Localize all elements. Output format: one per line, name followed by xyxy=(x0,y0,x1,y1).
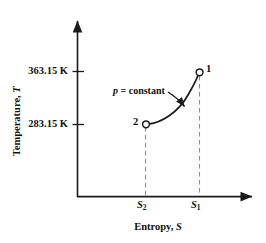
process-curve xyxy=(149,75,199,124)
annotation-arrow xyxy=(168,92,185,107)
y-axis-title-text: Temperature, xyxy=(11,93,22,157)
x-axis-title-text: Entropy, xyxy=(134,221,176,232)
process-annotation-text: = constant xyxy=(118,85,165,96)
x-tick-label-s1: S1 xyxy=(191,200,201,212)
state-point-1-marker xyxy=(196,69,203,76)
state-point-2-marker xyxy=(143,121,150,128)
x-tick-s2-subscript: 2 xyxy=(143,203,147,212)
ts-diagram: 363.15 K 283.15 K Temperature, T Entropy… xyxy=(0,0,266,243)
process-annotation-label: p = constant xyxy=(113,86,165,96)
y-axis-variable: T xyxy=(11,86,22,92)
x-tick-s1-subscript: 1 xyxy=(197,203,201,212)
x-axis-variable: S xyxy=(176,221,182,232)
y-axis-title: Temperature, T xyxy=(12,66,23,176)
state-point-2-label: 2 xyxy=(133,117,138,128)
x-tick-label-s2: S2 xyxy=(137,200,147,212)
state-point-1-label: 1 xyxy=(206,64,211,75)
x-axis-title: Entropy, S xyxy=(83,222,233,233)
